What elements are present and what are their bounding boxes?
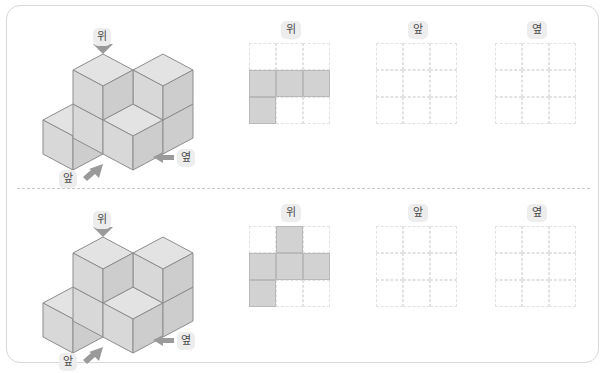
problem-row-2: 위 옆 앞 위 앞 옆	[7, 189, 600, 371]
direction-label-side-2: 옆	[177, 332, 195, 350]
grid-cell-r2-c2[interactable]	[403, 70, 430, 97]
grid-cell-r3-c3[interactable]	[549, 97, 576, 124]
view-panel-side-1: 옆	[473, 6, 601, 178]
grid-cell-r3-c2[interactable]	[276, 97, 303, 124]
answer-grid-top-1[interactable]	[249, 43, 330, 124]
grid-cell-r2-c1[interactable]	[376, 253, 403, 280]
grid-cell-r2-c1[interactable]	[376, 70, 403, 97]
grid-cell-r1-c3[interactable]	[549, 43, 576, 70]
view-title-top-2: 위	[281, 204, 301, 222]
answer-grid-top-2[interactable]	[249, 226, 330, 307]
grid-cell-r1-c1[interactable]	[495, 226, 522, 253]
grid-cell-r3-c3[interactable]	[549, 280, 576, 307]
grid-cell-r3-c1[interactable]	[376, 97, 403, 124]
solid-figure-1: 위 옆 앞	[25, 14, 215, 186]
view-title-wrap: 옆	[473, 201, 601, 222]
view-title-wrap: 앞	[354, 18, 482, 39]
grid-cell-r2-c3[interactable]	[303, 70, 330, 97]
view-panel-front-1: 앞	[354, 6, 482, 178]
grid-cell-r1-c3[interactable]	[303, 226, 330, 253]
grid-cell-r1-c3[interactable]	[303, 43, 330, 70]
grid-cell-r1-c2[interactable]	[276, 226, 303, 253]
grid-cell-r2-c2[interactable]	[276, 253, 303, 280]
view-title-wrap: 옆	[473, 18, 601, 39]
grid-cell-r3-c1[interactable]	[376, 280, 403, 307]
grid-cell-r2-c2[interactable]	[522, 70, 549, 97]
grid-cell-r2-c3[interactable]	[549, 253, 576, 280]
view-panel-front-2: 앞	[354, 189, 482, 361]
grid-cell-r3-c2[interactable]	[403, 280, 430, 307]
cube-stack-1	[43, 54, 193, 170]
grid-cell-r1-c1[interactable]	[249, 43, 276, 70]
direction-label-side-1: 옆	[177, 149, 195, 167]
grid-cell-r2-c1[interactable]	[495, 70, 522, 97]
grid-cell-r1-c2[interactable]	[403, 226, 430, 253]
grid-cell-r1-c2[interactable]	[522, 43, 549, 70]
grid-cell-r3-c1[interactable]	[249, 280, 276, 307]
grid-cell-r1-c1[interactable]	[376, 43, 403, 70]
grid-cell-r3-c1[interactable]	[495, 97, 522, 124]
grid-cell-r3-c3[interactable]	[303, 97, 330, 124]
view-panel-top-1: 위	[227, 6, 355, 178]
direction-label-front-1: 앞	[59, 170, 77, 188]
solid-figure-2: 위 옆 앞	[25, 197, 215, 369]
grid-cell-r2-c2[interactable]	[276, 70, 303, 97]
arrow-up-right-icon-2	[83, 347, 103, 364]
view-panel-top-2: 위	[227, 189, 355, 361]
grid-cell-r3-c2[interactable]	[276, 280, 303, 307]
grid-cell-r1-c2[interactable]	[522, 226, 549, 253]
answer-grid-side-2[interactable]	[495, 226, 576, 307]
grid-cell-r1-c3[interactable]	[430, 226, 457, 253]
grid-cell-r1-c1[interactable]	[376, 226, 403, 253]
grid-cell-r3-c3[interactable]	[303, 280, 330, 307]
grid-cell-r1-c1[interactable]	[249, 226, 276, 253]
view-title-top-1: 위	[281, 21, 301, 39]
direction-label-top-1: 위	[93, 28, 111, 46]
grid-cell-r2-c2[interactable]	[403, 253, 430, 280]
answer-grid-side-1[interactable]	[495, 43, 576, 124]
grid-cell-r3-c2[interactable]	[403, 97, 430, 124]
grid-cell-r1-c1[interactable]	[495, 43, 522, 70]
worksheet-frame: 위 옆 앞 위 앞 옆	[6, 5, 599, 363]
grid-cell-r3-c1[interactable]	[249, 97, 276, 124]
view-title-wrap: 앞	[354, 201, 482, 222]
grid-cell-r3-c3[interactable]	[430, 97, 457, 124]
direction-label-front-2: 앞	[59, 353, 77, 371]
cube-stack-2	[43, 237, 193, 353]
view-title-wrap: 위	[227, 18, 355, 39]
grid-cell-r1-c3[interactable]	[430, 43, 457, 70]
direction-label-top-2: 위	[93, 211, 111, 229]
grid-cell-r2-c2[interactable]	[522, 253, 549, 280]
grid-cell-r3-c3[interactable]	[430, 280, 457, 307]
grid-cell-r2-c1[interactable]	[495, 253, 522, 280]
grid-cell-r1-c2[interactable]	[403, 43, 430, 70]
grid-cell-r2-c3[interactable]	[303, 253, 330, 280]
view-title-front-2: 앞	[408, 204, 428, 222]
grid-cell-r2-c1[interactable]	[249, 70, 276, 97]
view-title-front-1: 앞	[408, 21, 428, 39]
grid-cell-r3-c2[interactable]	[522, 97, 549, 124]
grid-cell-r2-c3[interactable]	[430, 253, 457, 280]
answer-grid-front-2[interactable]	[376, 226, 457, 307]
view-title-side-2: 옆	[527, 204, 547, 222]
answer-grid-front-1[interactable]	[376, 43, 457, 124]
grid-cell-r1-c2[interactable]	[276, 43, 303, 70]
view-title-wrap: 위	[227, 201, 355, 222]
view-title-side-1: 옆	[527, 21, 547, 39]
problem-row-1: 위 옆 앞 위 앞 옆	[7, 6, 600, 188]
grid-cell-r2-c1[interactable]	[249, 253, 276, 280]
view-panel-side-2: 옆	[473, 189, 601, 361]
grid-cell-r3-c2[interactable]	[522, 280, 549, 307]
grid-cell-r2-c3[interactable]	[549, 70, 576, 97]
grid-cell-r3-c1[interactable]	[495, 280, 522, 307]
grid-cell-r1-c3[interactable]	[549, 226, 576, 253]
grid-cell-r2-c3[interactable]	[430, 70, 457, 97]
arrow-up-right-icon-1	[83, 164, 103, 181]
